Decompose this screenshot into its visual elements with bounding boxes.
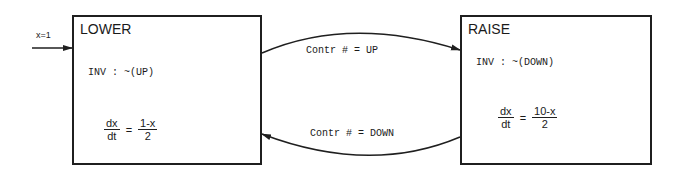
state-name: LOWER (80, 21, 131, 37)
rhs-fraction: 10-x 2 (532, 105, 557, 130)
state-name: RAISE (468, 21, 510, 37)
initial-condition-label: x=1 (36, 30, 51, 40)
state-invariant: INV : ~(DOWN) (476, 57, 554, 68)
flow-equation: dx dt = 1-x 2 (104, 117, 157, 142)
rhs-fraction: 1-x 2 (138, 117, 157, 142)
flow-equation: dx dt = 10-x 2 (498, 105, 557, 130)
state-invariant: INV : ~(UP) (88, 67, 154, 78)
derivative-fraction: dx dt (104, 117, 120, 142)
state-raise: RAISE INV : ~(DOWN) dx dt = 10-x 2 (460, 15, 652, 165)
transition-label-up: Contr # = UP (306, 45, 378, 56)
derivative-fraction: dx dt (498, 105, 514, 130)
state-lower: LOWER INV : ~(UP) dx dt = 1-x 2 (72, 15, 262, 165)
transition-label-down: Contr # = DOWN (310, 128, 394, 139)
